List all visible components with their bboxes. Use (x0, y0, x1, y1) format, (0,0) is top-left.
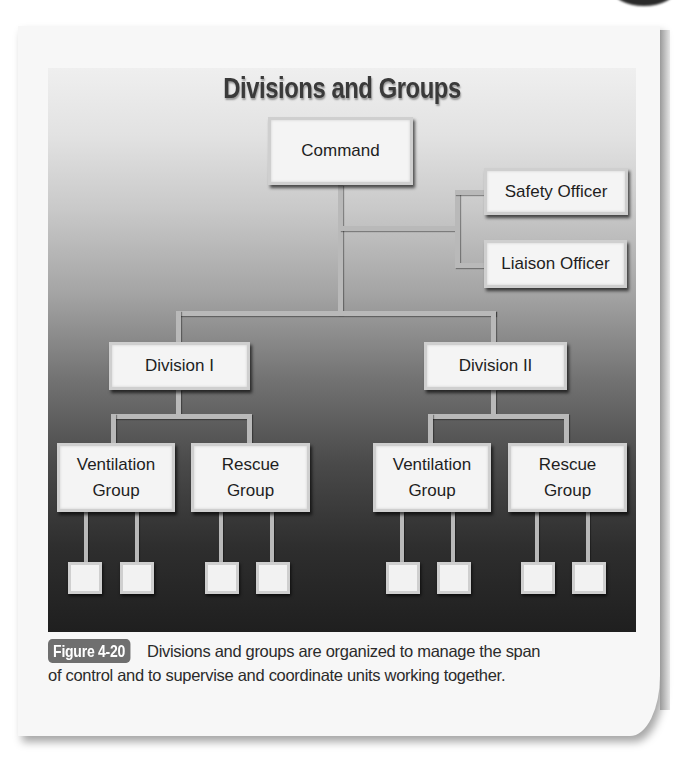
connector-unit (451, 512, 455, 564)
connector-div2-vg-drop (428, 414, 433, 444)
figure-number-badge: Figure 4-20 (48, 639, 130, 663)
unit-box (205, 562, 239, 594)
connector-unit (535, 512, 539, 564)
node-safety-officer: Safety Officer (484, 168, 628, 215)
diagram-title: Divisions and Groups (101, 72, 583, 105)
connector-division1-drop (176, 311, 181, 343)
node-division-1: Division I (109, 342, 250, 390)
connector-unit (135, 512, 139, 564)
group-label-line2: Group (408, 478, 455, 504)
connector-unit (400, 512, 404, 564)
connector-div2-down (491, 390, 496, 416)
group-label-line2: Group (92, 478, 139, 504)
unit-box (521, 562, 555, 594)
unit-box (120, 562, 154, 594)
connector-staff-branch (340, 226, 458, 231)
caption-text-line2: of control and to supervise and coordina… (48, 666, 505, 684)
connector-staff-bracket (455, 192, 460, 266)
group-label-line2: Group (227, 478, 274, 504)
connector-div2-groups-bar (428, 414, 568, 419)
connector-unit (586, 512, 590, 564)
unit-box (437, 562, 471, 594)
group-label-line1: Rescue (539, 452, 597, 478)
group-label-line2: Group (544, 478, 591, 504)
group-label-line1: Ventilation (393, 452, 471, 478)
connector-liaison (455, 263, 485, 268)
page-corner-shadow (612, 0, 676, 6)
unit-box (68, 562, 102, 594)
node-division-2: Division II (424, 342, 567, 390)
node-division-2-label: Division II (459, 353, 533, 379)
node-command-label: Command (301, 138, 379, 164)
node-div2-ventilation-group: Ventilation Group (373, 443, 491, 512)
connector-div1-groups-bar (111, 414, 251, 419)
node-div1-ventilation-group: Ventilation Group (57, 443, 175, 512)
node-liaison-officer-label: Liaison Officer (501, 251, 609, 277)
connector-division2-drop (491, 311, 496, 343)
connector-div1-vg-drop (111, 414, 116, 444)
connector-safety (455, 190, 485, 195)
connector-div1-down (176, 390, 181, 416)
node-liaison-officer: Liaison Officer (484, 240, 627, 288)
caption-text-line1: Divisions and groups are organized to ma… (147, 642, 540, 660)
connector-unit (219, 512, 223, 564)
connector-command-down (338, 185, 343, 315)
connector-unit (270, 512, 274, 564)
node-div2-rescue-group: Rescue Group (508, 443, 627, 512)
group-label-line1: Ventilation (77, 452, 155, 478)
group-label-line1: Rescue (222, 452, 280, 478)
figure-caption: Figure 4-20 Divisions and groups are org… (48, 639, 648, 687)
node-division-1-label: Division I (145, 353, 214, 379)
node-command: Command (268, 117, 413, 185)
page-edge-shadow (660, 30, 670, 710)
unit-box (386, 562, 420, 594)
unit-box (256, 562, 290, 594)
connector-div2-rg-drop (564, 414, 569, 444)
node-safety-officer-label: Safety Officer (505, 179, 608, 205)
connector-divisions-bar (176, 311, 496, 316)
connector-unit (84, 512, 88, 564)
connector-div1-rg-drop (247, 414, 252, 444)
unit-box (572, 562, 606, 594)
node-div1-rescue-group: Rescue Group (191, 443, 310, 512)
